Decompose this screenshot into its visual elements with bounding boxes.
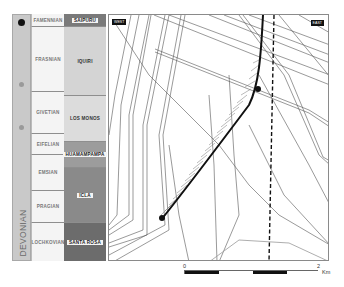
grey-marker-dot (19, 125, 24, 130)
scale-bar-track (184, 270, 318, 274)
well-marker-dot (159, 215, 165, 221)
era-label: DEVONIAN (18, 209, 28, 257)
scale-segment-black (253, 271, 287, 274)
formation-icla: ICLA (64, 168, 106, 223)
scale-unit-label: Km (322, 269, 330, 275)
stage-pragian: PRAGIAN (31, 191, 64, 223)
stage-frasnian: FRASNIAN (31, 27, 64, 92)
stage-givetian: GIVETIAN (31, 92, 64, 134)
scale-segment-white (219, 271, 253, 274)
era-column: DEVONIAN (12, 14, 31, 261)
stage-lochkovian: LOCHKOVIAN (31, 223, 64, 261)
structural-map: WEST EAST (108, 14, 329, 261)
formation-saipuru: SAIPURU (64, 14, 106, 27)
formation-iquiri: IQUIRI (64, 27, 106, 96)
formation-huamampampa: HUAMAMPAMPA (64, 142, 106, 168)
scale-segment-white (287, 271, 319, 274)
stage-famennian: FAMENNIAN (31, 14, 64, 27)
east-label: EAST (311, 20, 324, 26)
contour-lines (109, 15, 329, 261)
grey-marker-dot (19, 82, 24, 87)
stage-eifelian: EIFELIAN (31, 134, 64, 155)
stage-emsian: EMSIAN (31, 155, 64, 191)
scale-segment-black (185, 271, 219, 274)
formation-santa-rosa: SANTA ROSA (64, 223, 106, 261)
well-marker-dot (255, 86, 261, 92)
formation-los-monos: LOS MONOS (64, 96, 106, 142)
scale-start-label: 0 (183, 263, 186, 269)
scale-end-label: 2 (317, 263, 320, 269)
west-label: WEST (112, 19, 126, 25)
well-trajectory (161, 15, 263, 220)
black-marker-dot (18, 19, 25, 26)
